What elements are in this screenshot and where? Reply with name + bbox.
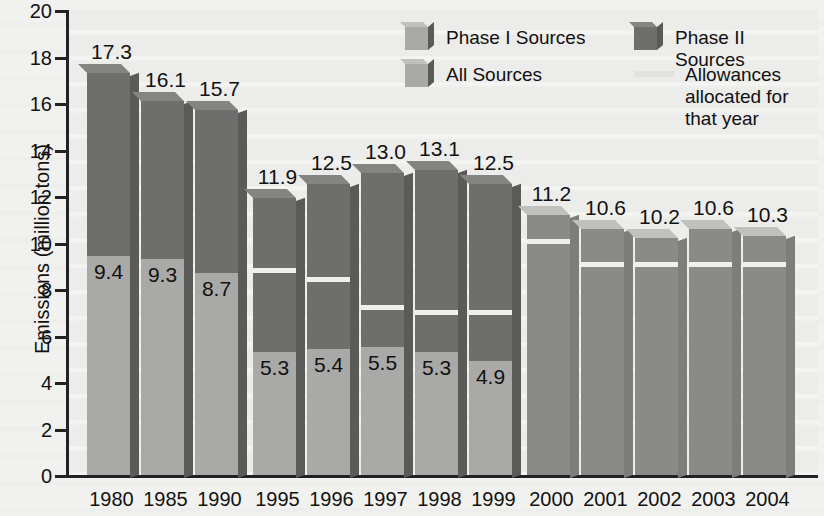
bar-1998[interactable] xyxy=(415,170,458,475)
bar-segment-phase-i xyxy=(141,259,184,475)
bar-top-face xyxy=(460,175,512,184)
bar-1997[interactable] xyxy=(361,173,404,475)
bar-segment-all-sources xyxy=(743,236,786,475)
bar-top-face xyxy=(244,189,296,198)
bar-2003[interactable] xyxy=(689,229,732,475)
legend-label-phase-i: Phase I Sources xyxy=(446,22,585,49)
y-axis-tick xyxy=(55,382,69,385)
bar-side-face xyxy=(678,238,687,478)
y-axis-tick xyxy=(55,57,69,60)
legend-item-phase-i-sources[interactable]: Phase I Sources xyxy=(405,22,585,50)
bar-phase-i-label: 5.3 xyxy=(413,356,461,380)
phase-i-swatch-icon xyxy=(405,22,437,50)
bar-1999[interactable] xyxy=(469,184,512,475)
bar-front-face xyxy=(581,229,624,475)
bar-top-face xyxy=(734,227,786,236)
bar-2002[interactable] xyxy=(635,238,678,475)
bar-side-face xyxy=(350,184,359,478)
allowance-line xyxy=(581,262,624,267)
bar-side-face xyxy=(404,172,413,478)
emissions-bar-chart: Emissions (million tons) 024681012141618… xyxy=(0,0,824,516)
allowance-line xyxy=(527,239,570,244)
y-axis-tick-label: 18 xyxy=(0,46,52,69)
bar-total-label: 15.7 xyxy=(185,77,255,101)
bar-segment-phase-ii xyxy=(307,184,350,349)
legend-row-1: Phase I Sources Phase II Sources xyxy=(405,22,817,59)
x-axis-tick-label: 2004 xyxy=(733,488,803,511)
bar-side-face xyxy=(624,228,633,478)
allowance-line xyxy=(253,268,296,273)
allowance-line xyxy=(635,262,678,267)
bar-side-face xyxy=(512,184,521,478)
y-axis-tick xyxy=(55,475,69,478)
bar-phase-i-label: 5.3 xyxy=(251,356,299,380)
bar-total-label: 12.5 xyxy=(459,151,529,175)
bar-front-face xyxy=(415,170,458,475)
y-axis-tick xyxy=(55,196,69,199)
bar-top-face xyxy=(78,64,130,73)
y-axis-tick-label: 4 xyxy=(0,372,52,395)
y-axis-tick xyxy=(55,243,69,246)
bar-segment-phase-ii xyxy=(87,73,130,257)
bar-top-face xyxy=(626,229,678,238)
bar-front-face xyxy=(635,238,678,475)
bar-2001[interactable] xyxy=(581,229,624,475)
bar-segment-phase-ii xyxy=(141,101,184,259)
allowance-line xyxy=(743,262,786,267)
bar-segment-phase-i xyxy=(195,273,238,475)
bar-segment-phase-ii xyxy=(253,198,296,351)
bar-phase-i-label: 9.3 xyxy=(139,263,187,287)
bar-top-face xyxy=(186,101,238,110)
allowance-line-swatch-icon xyxy=(634,71,674,77)
legend-label-all-sources: All Sources xyxy=(446,59,542,86)
allowance-line xyxy=(415,310,458,315)
bar-1985[interactable] xyxy=(141,101,184,475)
bar-total-label: 17.3 xyxy=(77,40,147,64)
y-axis-tick xyxy=(55,429,69,432)
bar-segment-phase-ii xyxy=(361,173,404,347)
bar-front-face xyxy=(743,236,786,475)
allowance-line xyxy=(361,305,404,310)
all-sources-swatch-icon xyxy=(405,59,437,87)
bar-front-face xyxy=(469,184,512,475)
y-axis-tick-label: 0 xyxy=(0,465,52,488)
y-axis-tick-label: 10 xyxy=(0,232,52,255)
bar-front-face xyxy=(141,101,184,475)
bar-top-face xyxy=(572,220,624,229)
bar-2004[interactable] xyxy=(743,236,786,475)
y-axis-tick xyxy=(55,150,69,153)
bar-1995[interactable] xyxy=(253,198,296,475)
bar-phase-i-label: 8.7 xyxy=(193,277,241,301)
phase-ii-swatch-icon xyxy=(634,22,666,50)
bar-1996[interactable] xyxy=(307,184,350,475)
bar-side-face xyxy=(732,228,741,478)
legend-item-allowances[interactable]: Allowances allocated for that year xyxy=(634,59,824,130)
bar-top-face xyxy=(680,220,732,229)
bar-phase-i-label: 5.4 xyxy=(305,353,353,377)
y-axis-tick xyxy=(55,336,69,339)
bar-side-face xyxy=(296,198,305,478)
bar-top-face xyxy=(518,206,570,215)
bar-segment-phase-ii xyxy=(469,184,512,361)
y-axis-tick-label: 6 xyxy=(0,325,52,348)
bar-total-label: 10.3 xyxy=(733,203,803,227)
bar-front-face xyxy=(689,229,732,475)
bar-segment-all-sources xyxy=(527,215,570,475)
bar-top-face xyxy=(352,164,404,173)
bar-front-face xyxy=(253,198,296,475)
legend-item-all-sources[interactable]: All Sources xyxy=(405,59,542,87)
y-axis-tick xyxy=(55,289,69,292)
allowance-line xyxy=(469,310,512,315)
y-axis-tick-label: 2 xyxy=(0,418,52,441)
bar-segment-phase-ii xyxy=(415,170,458,351)
bar-top-face xyxy=(132,92,184,101)
legend-label-allowances: Allowances allocated for that year xyxy=(685,59,824,130)
bar-2000[interactable] xyxy=(527,215,570,475)
bar-phase-i-label: 5.5 xyxy=(359,351,407,375)
allowance-line xyxy=(307,277,350,282)
y-axis-tick-label: 8 xyxy=(0,279,52,302)
bar-phase-i-label: 4.9 xyxy=(467,365,515,389)
y-axis-tick xyxy=(55,103,69,106)
y-axis-tick-label: 12 xyxy=(0,186,52,209)
y-axis-tick xyxy=(55,10,69,13)
